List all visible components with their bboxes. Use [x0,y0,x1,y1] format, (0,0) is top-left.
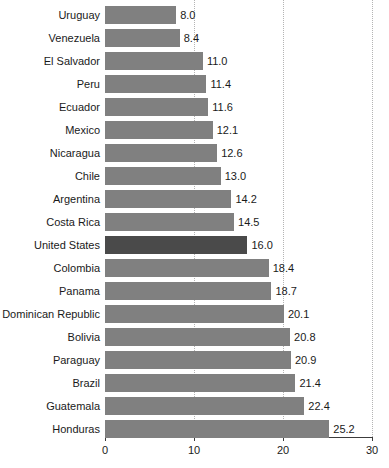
bar [105,282,271,300]
bar-row: Brazil21.4 [0,374,389,392]
category-label: Mexico [0,121,100,139]
value-label: 20.1 [288,305,309,323]
bar-row: Dominican Republic20.1 [0,305,389,323]
value-label: 11.0 [207,52,228,70]
value-label: 14.2 [235,190,256,208]
value-label: 18.4 [273,259,294,277]
bar-row: United States16.0 [0,236,389,254]
value-label: 8.4 [184,29,199,47]
bar [105,374,295,392]
category-label: United States [0,236,100,254]
bar-row: Guatemala22.4 [0,397,389,415]
bar [105,420,329,438]
value-label: 14.5 [238,213,259,231]
category-label: Honduras [0,420,100,438]
bar [105,52,203,70]
bar-row: Peru11.4 [0,75,389,93]
value-label: 25.2 [333,420,354,438]
bar [105,121,213,139]
bar-row: Panama18.7 [0,282,389,300]
bar [105,213,234,231]
category-label: Venezuela [0,29,100,47]
bar [105,397,304,415]
category-label: Bolivia [0,328,100,346]
category-label: Peru [0,75,100,93]
plot-area: 0102030 Uruguay8.0Venezuela8.4El Salvado… [0,0,389,468]
bar-row: Honduras25.2 [0,420,389,438]
category-label: Paraguay [0,351,100,369]
value-label: 11.4 [210,75,231,93]
bar [105,259,269,277]
bar-row: Ecuador11.6 [0,98,389,116]
category-label: Guatemala [0,397,100,415]
category-label: Argentina [0,190,100,208]
bar [105,75,206,93]
category-label: Uruguay [0,6,100,24]
bar [105,328,290,346]
value-label: 13.0 [225,167,246,185]
category-label: Panama [0,282,100,300]
category-label: Colombia [0,259,100,277]
category-label: Brazil [0,374,100,392]
bar [105,190,231,208]
bar-row: Colombia18.4 [0,259,389,277]
category-label: Dominican Republic [0,305,100,323]
bar [105,351,291,369]
bar-row: Uruguay8.0 [0,6,389,24]
bar [105,98,208,116]
value-label: 16.0 [251,236,272,254]
x-tick-label-10: 10 [174,443,214,457]
category-label: Costa Rica [0,213,100,231]
bar-row: Paraguay20.9 [0,351,389,369]
bar-row: Chile13.0 [0,167,389,185]
x-tick-label-20: 20 [263,443,303,457]
bar [105,167,221,185]
bar-row: Mexico12.1 [0,121,389,139]
value-label: 12.6 [221,144,242,162]
category-label: Ecuador [0,98,100,116]
bar-chart: 0102030 Uruguay8.0Venezuela8.4El Salvado… [0,0,389,468]
bar [105,305,284,323]
category-label: Nicaragua [0,144,100,162]
value-label: 21.4 [299,374,320,392]
value-label: 8.0 [180,6,195,24]
x-tick-label-30: 30 [352,443,389,457]
bar [105,6,176,24]
bar-row: Venezuela8.4 [0,29,389,47]
value-label: 11.6 [212,98,233,116]
bar-row: Argentina14.2 [0,190,389,208]
bar-highlighted [105,236,247,254]
bar-row: Bolivia20.8 [0,328,389,346]
value-label: 20.9 [295,351,316,369]
category-label: Chile [0,167,100,185]
bar-row: Costa Rica14.5 [0,213,389,231]
value-label: 18.7 [275,282,296,300]
value-label: 12.1 [217,121,238,139]
category-label: El Salvador [0,52,100,70]
value-label: 20.8 [294,328,315,346]
value-label: 22.4 [308,397,329,415]
x-tick-label-0: 0 [85,443,125,457]
bar [105,144,217,162]
bar [105,29,180,47]
bar-row: Nicaragua12.6 [0,144,389,162]
bar-row: El Salvador11.0 [0,52,389,70]
